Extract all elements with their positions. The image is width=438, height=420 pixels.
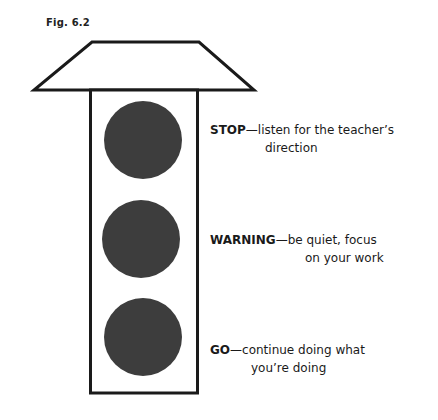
stop-text-line2: direction bbox=[210, 139, 394, 157]
warning-text-line1: be quiet, focus bbox=[288, 233, 377, 247]
go-keyword: GO bbox=[210, 343, 230, 357]
stop-text-line1: listen for the teacher’s bbox=[258, 123, 394, 137]
stop-light-icon bbox=[104, 101, 182, 179]
go-text-line1: continue doing what bbox=[242, 343, 365, 357]
warning-keyword: WARNING bbox=[210, 233, 276, 247]
warning-light-icon bbox=[102, 200, 180, 278]
go-text-line2: you’re doing bbox=[210, 359, 365, 377]
go-light-icon bbox=[104, 298, 182, 376]
stop-keyword: STOP bbox=[210, 123, 246, 137]
stop-dash: — bbox=[246, 123, 258, 137]
go-caption: GO—continue doing what you’re doing bbox=[210, 341, 365, 377]
warning-text-line2: on your work bbox=[210, 249, 384, 267]
traffic-light-hood bbox=[34, 42, 254, 90]
stop-caption: STOP—listen for the teacher’s direction bbox=[210, 121, 394, 157]
warning-dash: — bbox=[276, 233, 288, 247]
warning-caption: WARNING—be quiet, focus on your work bbox=[210, 231, 384, 267]
go-dash: — bbox=[230, 343, 242, 357]
